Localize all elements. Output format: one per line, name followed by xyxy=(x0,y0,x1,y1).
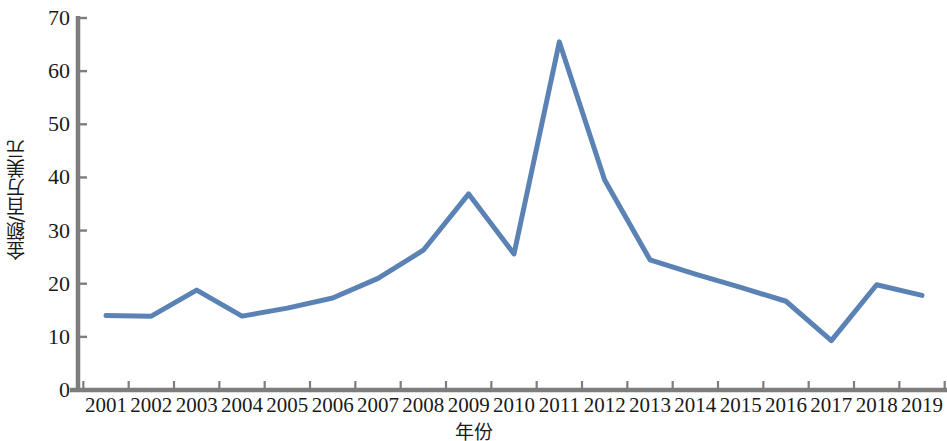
x-tick-label: 2016 xyxy=(765,394,807,417)
x-tick-label: 2008 xyxy=(402,394,444,417)
x-tick-label: 2007 xyxy=(357,394,399,417)
x-tick-label: 2013 xyxy=(629,394,671,417)
x-axis-title: 年份 xyxy=(0,417,947,441)
x-tick-label: 2012 xyxy=(584,394,626,417)
x-tick-label: 2005 xyxy=(266,394,308,417)
chart-figure: 金额/百万美元 010203040506070 2001200220032004… xyxy=(0,0,947,441)
x-tick-label: 2018 xyxy=(856,394,898,417)
x-tick-label: 2003 xyxy=(176,394,218,417)
x-tick-label: 2006 xyxy=(312,394,354,417)
plot-area xyxy=(0,0,947,441)
x-tick-label: 2014 xyxy=(674,394,716,417)
axis-ticks xyxy=(78,18,945,390)
x-tick-label: 2004 xyxy=(221,394,263,417)
data-series-line xyxy=(106,42,922,341)
x-tick-label: 2010 xyxy=(493,394,535,417)
x-tick-label: 2002 xyxy=(130,394,172,417)
x-tick-label: 2009 xyxy=(448,394,490,417)
x-tick-label: 2019 xyxy=(901,394,943,417)
x-tick-label: 2017 xyxy=(810,394,852,417)
x-axis-title-text: 年份 xyxy=(455,417,493,441)
axis-spines xyxy=(70,16,947,390)
x-tick-label: 2015 xyxy=(720,394,762,417)
x-tick-label: 2011 xyxy=(539,394,580,417)
x-tick-label: 2001 xyxy=(85,394,127,417)
